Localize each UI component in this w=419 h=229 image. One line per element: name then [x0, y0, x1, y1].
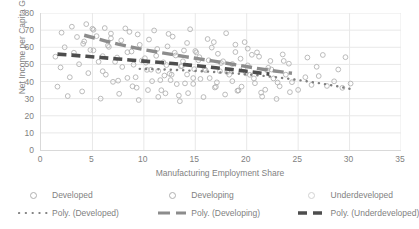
y-tick-label: 0 — [4, 146, 34, 155]
x-tick-label: 10 — [130, 155, 156, 164]
x-tick-label: 5 — [78, 155, 104, 164]
legend-item-poly-underdeveloped[interactable]: Poly. (Underdeveloped) — [279, 204, 418, 222]
legend-item-underdeveloped[interactable]: Underdeveloped — [279, 186, 418, 204]
open-circle-marker-icon — [297, 189, 327, 201]
legend-item-developed[interactable]: Developed — [0, 186, 139, 204]
x-tick-label: 0 — [27, 155, 53, 164]
plot-area — [40, 13, 401, 151]
x-tick-label: 30 — [336, 155, 362, 164]
plot-canvas — [41, 13, 401, 150]
legend-label-developing: Developing — [187, 191, 234, 200]
y-tick-label: 10 — [4, 129, 34, 138]
legend-item-poly-developing[interactable]: Poly. (Developing) — [139, 204, 278, 222]
legend-label-developed: Developed — [48, 191, 93, 200]
chart-legend: Developed Developing Underdeveloped — [0, 186, 418, 226]
x-tick-label: 20 — [233, 155, 259, 164]
legend-row-series: Developed Developing Underdeveloped — [0, 186, 418, 204]
dashed-line-key-icon — [297, 207, 327, 219]
x-tick-label: 35 — [387, 155, 413, 164]
legend-label-poly-developing: Poly. (Developing) — [187, 209, 260, 218]
legend-label-poly-developed: Poly. (Developed) — [48, 209, 119, 218]
y-tick-label: 20 — [4, 112, 34, 121]
legend-label-poly-underdeveloped: Poly. (Underdeveloped) — [327, 209, 419, 218]
dotted-line-key-icon — [18, 207, 48, 219]
x-tick-label: 25 — [284, 155, 310, 164]
legend-row-trendlines: Poly. (Developed) Poly. (Developing) Pol… — [0, 204, 418, 222]
legend-item-poly-developed[interactable]: Poly. (Developed) — [0, 204, 139, 222]
gridlines — [41, 13, 401, 150]
y-axis-title: Net Income per Capita Gini — [17, 0, 27, 113]
dashed-line-key-icon — [157, 207, 187, 219]
legend-item-developing[interactable]: Developing — [139, 186, 278, 204]
open-circle-marker-icon — [18, 189, 48, 201]
open-circle-marker-icon — [157, 189, 187, 201]
x-tick-label: 15 — [181, 155, 207, 164]
x-axis-title: Manufacturing Employment Share — [40, 168, 400, 178]
legend-label-underdeveloped: Underdeveloped — [327, 191, 393, 200]
